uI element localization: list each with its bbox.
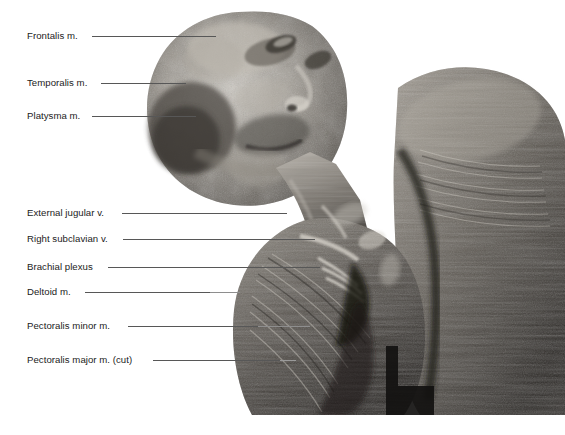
leader-line-pectoralis-major-cut: [153, 360, 280, 361]
head-region: [147, 11, 347, 205]
caption-fragment: regional: [128, 0, 248, 6]
leader-line-right-subclavian-vein: [123, 239, 315, 240]
leader-line-frontalis: [92, 36, 216, 37]
leader-line-temporalis: [101, 83, 186, 84]
label-frontalis: Frontalis m.: [27, 30, 78, 41]
label-external-jugular-vein: External jugular v.: [27, 207, 104, 218]
leader-line-brachial-plexus: [108, 267, 320, 268]
leader-line-platysma: [92, 116, 196, 117]
leader-line-pectoralis-major-extension: [280, 360, 296, 361]
shoulder-arm-region: [391, 66, 565, 415]
label-right-subclavian-vein: Right subclavian v.: [27, 233, 108, 244]
leader-line-pectoralis-minor: [128, 326, 258, 327]
label-brachial-plexus: Brachial plexus: [27, 261, 93, 272]
label-temporalis: Temporalis m.: [27, 77, 87, 88]
leader-line-pectoralis-minor-extension: [258, 326, 310, 327]
label-deltoid: Deltoid m.: [27, 286, 71, 297]
label-pectoralis-minor: Pectoralis minor m.: [27, 320, 110, 331]
leader-line-external-jugular-vein: [122, 213, 287, 214]
label-pectoralis-major-cut: Pectoralis major m. (cut): [27, 354, 132, 365]
pectoral-axilla-region: [233, 206, 434, 415]
label-platysma: Platysma m.: [27, 110, 80, 121]
anatomy-plate-page: regional: [0, 0, 565, 435]
neck-region: [276, 152, 372, 270]
leader-line-deltoid-extension: [210, 292, 240, 293]
leader-line-deltoid: [85, 292, 210, 293]
supraclavicular-structures: [330, 198, 403, 288]
